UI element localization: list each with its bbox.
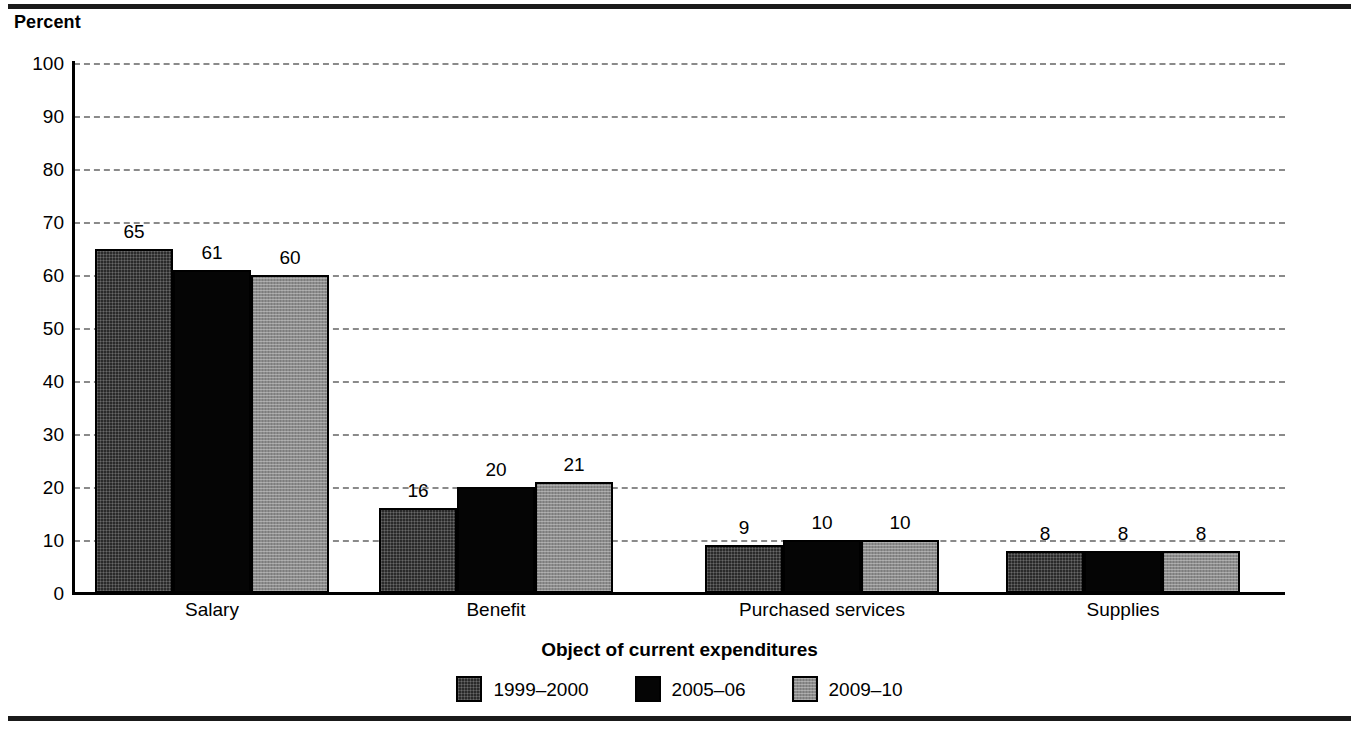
bar [173, 270, 251, 593]
legend-swatch-icon [635, 676, 661, 702]
bar [251, 275, 329, 593]
y-tick-label-40: 40 [10, 372, 64, 391]
bar [1162, 551, 1240, 593]
bar-value-label: 65 [95, 222, 173, 241]
legend-item: 2009–10 [792, 676, 903, 702]
category-label-supplies: Supplies [956, 600, 1290, 619]
bar-value-label: 60 [251, 248, 329, 267]
y-tick-label-10: 10 [10, 531, 64, 550]
legend-swatch-icon [456, 676, 482, 702]
y-tick-label-100: 100 [10, 54, 64, 73]
y-tick-label-30: 30 [10, 425, 64, 444]
legend-label: 2009–10 [829, 680, 903, 699]
legend-label: 1999–2000 [493, 680, 588, 699]
y-tick-label-70: 70 [10, 213, 64, 232]
x-axis-title: Object of current expenditures [0, 639, 1359, 661]
bar-value-label: 9 [705, 518, 783, 537]
bar-value-label: 20 [457, 460, 535, 479]
bar [1006, 551, 1084, 593]
top-divider-rule [8, 4, 1351, 9]
y-tick-label-20: 20 [10, 478, 64, 497]
y-tick-label-80: 80 [10, 160, 64, 179]
bar [1084, 551, 1162, 593]
legend-item: 1999–2000 [456, 676, 588, 702]
bar [783, 540, 861, 593]
bottom-divider-rule [8, 716, 1351, 721]
bar [379, 508, 457, 593]
bar [861, 540, 939, 593]
y-axis-tick-labels: 1009080706050403020100 [0, 63, 64, 593]
bar [457, 487, 535, 593]
y-tick-label-90: 90 [10, 107, 64, 126]
chart-legend: 1999–20002005–062009–10 [0, 676, 1359, 702]
bar-value-label: 16 [379, 481, 457, 500]
category-label-purchased-services: Purchased services [655, 600, 989, 619]
bar [705, 545, 783, 593]
y-tick-label-60: 60 [10, 266, 64, 285]
bar-chart-figure: Percent 1009080706050403020100 656160162… [0, 0, 1359, 740]
bar-value-label: 10 [783, 513, 861, 532]
category-label-benefit: Benefit [329, 600, 663, 619]
y-axis-unit-label: Percent [14, 12, 81, 33]
bar-value-label: 21 [535, 455, 613, 474]
y-tick-label-50: 50 [10, 319, 64, 338]
bars-layer: 65616016202191010888 [74, 63, 1285, 593]
bar-value-label: 61 [173, 243, 251, 262]
legend-label: 2005–06 [672, 680, 746, 699]
legend-swatch-icon [792, 676, 818, 702]
bar-value-label: 8 [1084, 524, 1162, 543]
bar [95, 249, 173, 594]
legend-item: 2005–06 [635, 676, 746, 702]
bar [535, 482, 613, 593]
bar-value-label: 10 [861, 513, 939, 532]
bar-value-label: 8 [1162, 524, 1240, 543]
bar-value-label: 8 [1006, 524, 1084, 543]
